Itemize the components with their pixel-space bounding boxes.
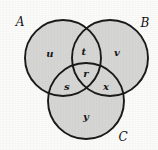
region-label-r: r xyxy=(83,69,88,79)
region-label-u: u xyxy=(46,49,53,59)
region-label-x: x xyxy=(103,82,109,92)
set-label-b: B xyxy=(141,17,150,29)
set-label-a: A xyxy=(16,16,25,28)
set-label-c: C xyxy=(118,131,127,143)
venn-diagram-figure: A B C u t v r s x y xyxy=(0,0,158,150)
region-label-y: y xyxy=(83,112,89,122)
region-label-s: s xyxy=(64,82,70,92)
region-label-v: v xyxy=(114,48,120,58)
region-label-t: t xyxy=(82,47,87,57)
